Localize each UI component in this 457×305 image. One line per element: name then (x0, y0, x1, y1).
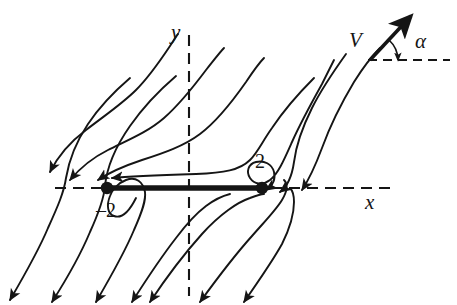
streamline (132, 194, 230, 302)
axes-group (55, 35, 392, 296)
streamline-canvas (0, 0, 457, 305)
velocity-vector-label: V (349, 30, 362, 51)
y-axis-label: y (171, 22, 180, 43)
velocity-vector (370, 16, 411, 60)
alpha-angle-label: α (415, 31, 426, 52)
alpha-arc (389, 40, 398, 60)
plate-left-endpoint-label: –2 (96, 200, 116, 220)
stagnation-point-left (101, 182, 113, 194)
streamline (112, 78, 314, 178)
streamline (302, 48, 380, 190)
streamline (70, 48, 224, 180)
flat-plate-group (101, 182, 268, 194)
streamline (50, 34, 178, 172)
streamline (150, 194, 264, 302)
plate-right-endpoint-label: 2 (255, 151, 265, 171)
streamline (244, 188, 294, 302)
flow-figure: y x –2 2 V α (0, 0, 457, 305)
streamline (200, 180, 287, 302)
streamlines-group (10, 34, 380, 302)
streamline (98, 58, 264, 180)
stagnation-point-right (256, 182, 268, 194)
velocity-annotation-group (368, 16, 450, 60)
x-axis-label: x (365, 192, 374, 213)
